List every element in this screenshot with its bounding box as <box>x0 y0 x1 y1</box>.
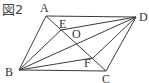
point-label-D: D <box>139 10 148 24</box>
point-label-O: O <box>72 27 81 41</box>
geometry-figure: 図2 ADBCEOF <box>0 0 149 83</box>
segment-CD <box>106 17 136 71</box>
point-label-A: A <box>40 1 49 15</box>
point-label-F: F <box>84 56 91 70</box>
figure-title: 図2 <box>2 2 23 17</box>
point-label-C: C <box>102 72 110 83</box>
figure-segments <box>19 16 136 71</box>
segment-AB <box>19 16 46 70</box>
segment-BD <box>19 17 136 70</box>
point-label-E: E <box>59 17 66 31</box>
segment-BC <box>19 70 106 71</box>
point-label-B: B <box>5 65 13 79</box>
